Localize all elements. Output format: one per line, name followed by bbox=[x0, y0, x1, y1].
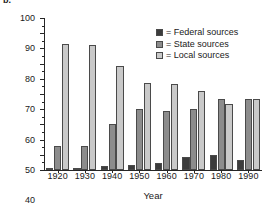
legend-swatch-icon-state bbox=[156, 41, 163, 48]
bar-group-1930 bbox=[73, 18, 96, 170]
legend-swatch-icon-local bbox=[156, 52, 163, 59]
x-tick-label-1920: 1920 bbox=[44, 172, 71, 181]
bar-group-1940 bbox=[101, 18, 124, 170]
y-tick-50: 50 bbox=[40, 94, 44, 95]
panel-label: b. bbox=[3, 0, 11, 5]
legend-item-local: = Local sources bbox=[156, 50, 238, 62]
bar-group-1920 bbox=[46, 18, 69, 170]
y-tick-label-60: 60 bbox=[9, 135, 35, 144]
bar-state-1980 bbox=[218, 99, 225, 170]
y-tick-40: 40 bbox=[40, 109, 44, 110]
y-minor-tick-15 bbox=[42, 147, 44, 148]
bar-group-1950 bbox=[128, 18, 151, 170]
x-tick-label-1980: 1980 bbox=[208, 172, 235, 181]
x-tick-label-1930: 1930 bbox=[71, 172, 98, 181]
y-minor-tick-45 bbox=[42, 102, 44, 103]
x-tick-label-1990: 1990 bbox=[235, 172, 262, 181]
legend-item-state: = State sources bbox=[156, 39, 238, 51]
legend-label: = Local sources bbox=[166, 50, 229, 62]
y-tick-20: 20 bbox=[40, 140, 44, 141]
bar-federal-1940 bbox=[101, 166, 108, 170]
x-tick-label-1950: 1950 bbox=[126, 172, 153, 181]
y-tick-label-80: 80 bbox=[9, 74, 35, 83]
bar-state-1920 bbox=[54, 146, 61, 170]
y-tick-80: 80 bbox=[40, 48, 44, 49]
legend-label: = State sources bbox=[166, 39, 229, 51]
bar-state-1940 bbox=[109, 124, 116, 170]
y-minor-tick-65 bbox=[42, 71, 44, 72]
x-axis-title: Year bbox=[44, 190, 262, 201]
bar-federal-1930 bbox=[73, 168, 80, 170]
y-minor-tick-35 bbox=[42, 117, 44, 118]
y-tick-70: 70 bbox=[40, 64, 44, 65]
y-tick-0: 0 bbox=[40, 170, 44, 171]
y-tick-100: 100 bbox=[40, 18, 44, 19]
bar-local-1990 bbox=[253, 99, 260, 170]
bar-local-1970 bbox=[198, 91, 205, 170]
y-minor-tick-5 bbox=[42, 162, 44, 163]
y-minor-tick-85 bbox=[42, 41, 44, 42]
figure-panel-b: b. Percentage Year 010203040506070809010… bbox=[0, 0, 273, 207]
legend-item-federal: = Federal sources bbox=[156, 27, 238, 39]
bar-federal-1950 bbox=[128, 165, 135, 170]
bar-local-1940 bbox=[116, 66, 123, 170]
bar-state-1990 bbox=[245, 99, 252, 170]
y-axis-line bbox=[44, 18, 45, 170]
y-tick-10: 10 bbox=[40, 155, 44, 156]
bar-local-1930 bbox=[89, 45, 96, 170]
legend-swatch-icon-federal bbox=[156, 29, 163, 36]
y-tick-30: 30 bbox=[40, 124, 44, 125]
bar-federal-1990 bbox=[237, 160, 244, 170]
x-tick-label-1940: 1940 bbox=[99, 172, 126, 181]
y-tick-60: 60 bbox=[40, 79, 44, 80]
y-minor-tick-75 bbox=[42, 56, 44, 57]
y-minor-tick-25 bbox=[42, 132, 44, 133]
bar-local-1960 bbox=[171, 84, 178, 170]
bar-local-1920 bbox=[62, 44, 69, 170]
x-tick-label-1970: 1970 bbox=[180, 172, 207, 181]
y-minor-tick-95 bbox=[42, 26, 44, 27]
chart-legend: = Federal sources= State sources= Local … bbox=[156, 27, 238, 62]
y-tick-90: 90 bbox=[40, 33, 44, 34]
y-tick-label-90: 90 bbox=[9, 44, 35, 53]
bar-federal-1970 bbox=[182, 157, 189, 170]
legend-label: = Federal sources bbox=[166, 27, 238, 39]
bar-state-1960 bbox=[163, 111, 170, 170]
y-tick-label-50: 50 bbox=[9, 166, 35, 175]
y-tick-label-100: 100 bbox=[9, 14, 35, 23]
x-tick-label-1960: 1960 bbox=[153, 172, 180, 181]
bar-federal-1920 bbox=[46, 168, 53, 170]
bar-federal-1980 bbox=[210, 155, 217, 170]
bar-state-1950 bbox=[136, 109, 143, 170]
bar-state-1930 bbox=[81, 146, 88, 170]
bar-group-1990 bbox=[237, 18, 260, 170]
bar-federal-1960 bbox=[155, 163, 162, 170]
bar-local-1950 bbox=[144, 83, 151, 170]
y-minor-tick-55 bbox=[42, 86, 44, 87]
y-tick-label-70: 70 bbox=[9, 105, 35, 114]
bar-local-1980 bbox=[225, 104, 232, 170]
bar-state-1970 bbox=[190, 109, 197, 170]
y-tick-label-40: 40 bbox=[9, 196, 35, 205]
